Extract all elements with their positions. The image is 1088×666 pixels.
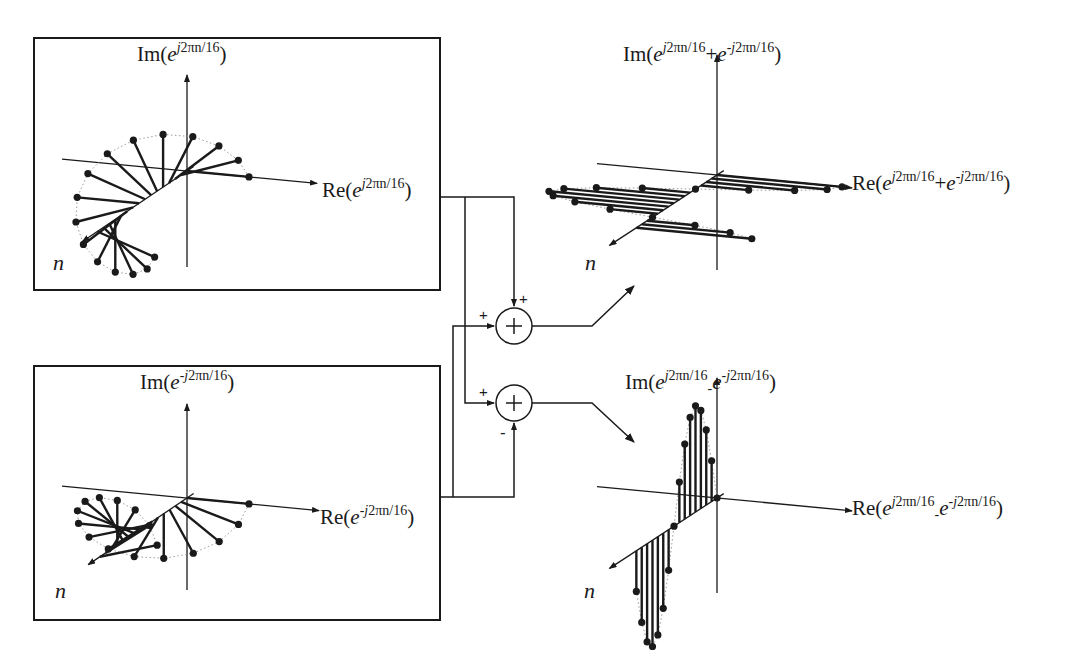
sample-dot — [146, 522, 153, 529]
re-axis — [597, 487, 852, 511]
term2-base: e — [712, 370, 721, 394]
sample-dot — [824, 186, 831, 193]
label-suffix: ) — [220, 42, 227, 66]
sample-stem — [103, 227, 147, 268]
adder-top-input-sign: + — [519, 291, 528, 306]
label-base: e — [170, 370, 179, 394]
sample-stem — [77, 511, 134, 534]
sample-dot — [660, 605, 667, 612]
term2-exponent: -j2πn/16 — [722, 368, 770, 383]
figure-canvas: Im(ej2πn/16) Re(ej2πn/16) n Im(e-j2πn/16… — [0, 0, 1088, 666]
term1-base: e — [653, 42, 662, 66]
label-base: e — [167, 42, 176, 66]
term1-exponent: j2πn/16 — [665, 368, 708, 383]
sample-stem — [88, 174, 145, 200]
exp-rest: 2πn/16 — [730, 368, 769, 383]
sample-dot — [644, 638, 651, 645]
label-prefix: Re( — [852, 496, 882, 520]
sample-dot — [74, 194, 81, 201]
sample-dot — [144, 265, 151, 272]
sample-dot — [606, 206, 613, 213]
sample-dot — [160, 555, 167, 562]
exp-rest: 2πn/16 — [669, 368, 708, 383]
subtractor-left-input-sign: + — [479, 384, 488, 399]
sample-dot — [550, 192, 557, 199]
sample-dot — [80, 241, 87, 248]
sample-dot — [96, 494, 103, 501]
operator: - — [708, 381, 713, 396]
sample-dot — [692, 185, 699, 192]
sample-stem — [77, 197, 139, 203]
sample-stem — [187, 498, 249, 504]
exp-rest: 2πn/16 — [667, 40, 706, 55]
exp-rest: 2πn/16 — [896, 494, 935, 509]
term1-base: e — [655, 370, 664, 394]
sample-dot — [74, 507, 81, 514]
sample-dot — [727, 229, 734, 236]
label-suffix: ) — [407, 505, 414, 529]
sample-dot — [132, 506, 139, 513]
sample-dot — [593, 184, 600, 191]
label-exponent: j2πn/16 — [177, 40, 220, 55]
operator: - — [935, 507, 940, 522]
sample-dot — [131, 553, 138, 560]
sample-dot — [245, 500, 252, 507]
helix-plot-positive — [62, 75, 317, 278]
term2-base: e — [717, 42, 726, 66]
sample-dot — [215, 142, 222, 149]
re-axis-label-negative: Re(e-j2πn/16) — [320, 507, 414, 528]
sample-dot — [791, 187, 798, 194]
signal-wiring — [440, 197, 634, 497]
sample-dot — [154, 542, 161, 549]
label-prefix: Re( — [320, 505, 350, 529]
term1-base: e — [882, 496, 891, 520]
exp-rest: 2πn/16 — [188, 368, 227, 383]
label-suffix: ) — [405, 178, 412, 202]
label-prefix: Im( — [625, 370, 655, 394]
sample-dot — [639, 184, 646, 191]
sample-dot — [85, 533, 92, 540]
sample-stem — [169, 137, 193, 183]
term2-base: e — [939, 496, 948, 520]
sample-dot — [114, 497, 121, 504]
sample-stem — [109, 223, 133, 274]
sample-dot — [633, 588, 640, 595]
label-suffix: ) — [769, 370, 776, 394]
sample-dot — [130, 137, 137, 144]
re-axis-label-positive: Re(ej2πn/16) — [322, 180, 412, 201]
sample-dot — [687, 414, 694, 421]
label-suffix: ) — [227, 370, 234, 394]
wire-bottom-to-adder — [453, 326, 494, 497]
sample-dot — [703, 426, 710, 433]
label-exponent: -j2πn/16 — [360, 503, 408, 518]
operator: + — [706, 42, 718, 66]
exp-rest: 2πn/16 — [181, 40, 220, 55]
exp-rest: 2πn/16 — [368, 503, 407, 518]
sample-dot — [84, 170, 91, 177]
sample-dot — [713, 494, 720, 501]
im-axis-label-sum: Im(ej2πn/16+e-j2πn/16) — [623, 44, 781, 65]
sample-dot — [129, 271, 136, 278]
helix-plot-negative — [62, 404, 319, 590]
sample-dot — [649, 214, 656, 221]
sample-stem — [107, 154, 151, 195]
term1-exponent: j2πn/16 — [892, 494, 935, 509]
label-base: e — [352, 178, 361, 202]
term1-exponent: j2πn/16 — [892, 169, 935, 184]
exp-rest: 2πn/16 — [896, 169, 935, 184]
sample-stem — [181, 502, 238, 525]
term1-exponent: j2πn/16 — [663, 40, 706, 55]
sample-stem — [98, 215, 122, 261]
n-axis-label: n — [584, 580, 595, 602]
label-prefix: Re( — [852, 171, 882, 195]
sample-dot — [571, 198, 578, 205]
label-base: e — [350, 505, 359, 529]
label-prefix: Im( — [140, 370, 170, 394]
panel-frame — [34, 366, 440, 620]
n-axis-label: n — [55, 580, 66, 602]
sample-dot — [748, 235, 755, 242]
label-suffix: ) — [774, 42, 781, 66]
exp-rest: 2πn/16 — [366, 176, 405, 191]
label-suffix: ) — [1003, 171, 1010, 195]
label-prefix: Im( — [623, 42, 653, 66]
